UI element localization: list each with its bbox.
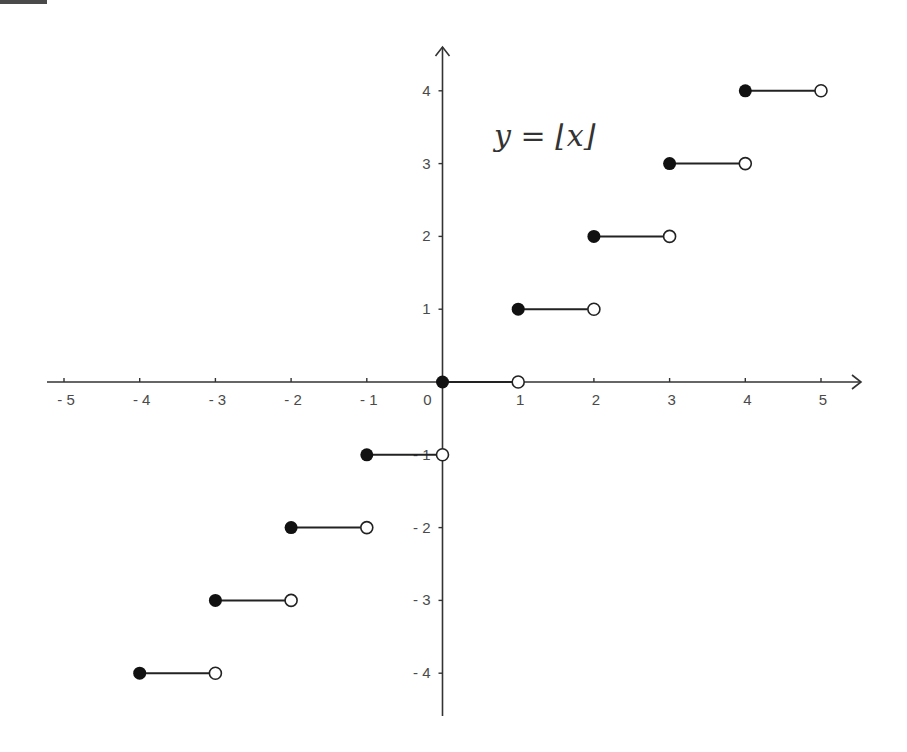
open-endpoint-icon xyxy=(588,303,600,315)
y-tick-label: - 3 xyxy=(413,591,431,608)
closed-endpoint-icon xyxy=(133,667,146,680)
closed-endpoint-icon xyxy=(209,594,222,607)
open-endpoint-icon xyxy=(209,667,221,679)
open-endpoint-icon xyxy=(361,522,373,534)
y-tick-label: 1 xyxy=(422,300,430,317)
open-endpoint-icon xyxy=(285,594,297,606)
x-tick-label: 0 xyxy=(423,391,431,408)
x-tick-label: 1 xyxy=(516,391,524,408)
y-tick-label: 2 xyxy=(422,227,430,244)
x-tick-label: - 1 xyxy=(360,391,378,408)
x-tick-label: - 5 xyxy=(57,391,75,408)
open-endpoint-icon xyxy=(437,449,449,461)
closed-endpoint-icon xyxy=(360,448,373,461)
closed-endpoint-icon xyxy=(587,230,600,243)
open-endpoint-icon xyxy=(815,85,827,97)
x-tick-label: 5 xyxy=(819,391,827,408)
x-tick-label: - 4 xyxy=(133,391,151,408)
open-endpoint-icon xyxy=(739,158,751,170)
floor-function-plot: - 5- 4- 3- 2- 1012345- 4- 3- 2- 11234 y … xyxy=(0,0,907,752)
step-segment xyxy=(663,157,751,170)
closed-endpoint-icon xyxy=(285,521,298,534)
y-tick-label: - 2 xyxy=(413,519,431,536)
function-label: y = ⌊x⌋ xyxy=(492,118,596,153)
open-endpoint-icon xyxy=(512,376,524,388)
step-segment xyxy=(360,448,448,461)
y-tick-label: 3 xyxy=(422,155,430,172)
closed-endpoint-icon xyxy=(512,303,525,316)
step-segment xyxy=(285,521,373,534)
step-segment xyxy=(739,84,827,97)
x-tick-label: 4 xyxy=(743,391,751,408)
closed-endpoint-icon xyxy=(663,157,676,170)
x-tick-label: - 3 xyxy=(209,391,227,408)
step-segment xyxy=(587,230,675,243)
x-tick-label: 2 xyxy=(592,391,600,408)
x-tick-label: 3 xyxy=(667,391,675,408)
y-tick-label: 4 xyxy=(422,82,430,99)
closed-endpoint-icon xyxy=(739,84,752,97)
closed-endpoint-icon xyxy=(436,376,449,389)
step-segment xyxy=(512,303,600,316)
step-segment xyxy=(133,667,221,680)
open-endpoint-icon xyxy=(664,230,676,242)
step-segment xyxy=(209,594,297,607)
y-tick-label: - 4 xyxy=(413,664,431,681)
step-segment xyxy=(436,376,524,389)
x-tick-label: - 2 xyxy=(284,391,302,408)
